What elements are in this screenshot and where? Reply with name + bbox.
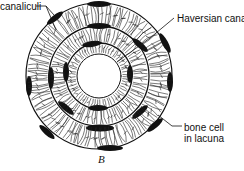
- osteon-diagram: [0, 0, 244, 171]
- label-bone-cell: bone cell in lacuna: [184, 122, 224, 144]
- label-canaliculi: canaliculi: [0, 1, 41, 12]
- label-bone-cell-line1: bone cell: [184, 122, 224, 133]
- figure-label: B: [98, 153, 105, 165]
- label-bone-cell-line2: in lacuna: [184, 133, 224, 144]
- haversian-canal: [77, 54, 121, 98]
- label-haversian-canal: Haversian canal: [177, 13, 244, 24]
